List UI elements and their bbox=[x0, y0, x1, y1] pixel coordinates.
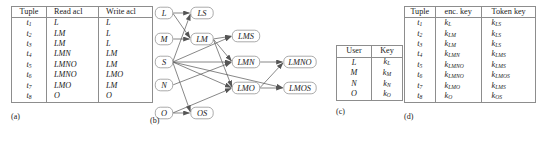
graph-node-os[interactable]: OS bbox=[191, 107, 213, 119]
table-row: t6 LMNO LMO bbox=[12, 70, 153, 80]
column-header-key: Key bbox=[372, 46, 403, 58]
table-header-row: Tuple Read acl Write acl bbox=[12, 7, 153, 18]
table-row: t8 kO kOS bbox=[405, 91, 536, 102]
cell-token-key: kLS bbox=[482, 29, 536, 39]
cell-enc-key: kO bbox=[435, 91, 482, 102]
column-header-user: User bbox=[337, 46, 372, 58]
panel-d-enc-token-key-table: Tuple enc. key Token key t1 kL kLS t2 kL… bbox=[404, 6, 536, 103]
graph-node-label: LM bbox=[195, 35, 209, 44]
table-header-row: Tuple enc. key Token key bbox=[405, 7, 536, 18]
cell-write-acl: LM bbox=[99, 50, 153, 60]
cell-token-key: kLMOS bbox=[482, 70, 536, 80]
cell-write-acl: L bbox=[99, 18, 153, 29]
cell-enc-key: kL bbox=[435, 18, 482, 29]
cell-write-acl: LMO bbox=[99, 70, 153, 80]
cell-key: kL bbox=[372, 57, 403, 68]
cell-tuple: t4 bbox=[12, 50, 47, 60]
cell-write-acl: L bbox=[99, 29, 153, 39]
table-row: t2 kLM kLS bbox=[405, 29, 536, 39]
cell-read-acl: LMNO bbox=[47, 60, 99, 70]
cell-user: L bbox=[337, 57, 372, 68]
cell-tuple: t7 bbox=[12, 81, 47, 91]
panel-a-read-write-acl: Tuple Read acl Write acl t1 L L t2 LM L … bbox=[11, 6, 153, 103]
table-row: L kL bbox=[337, 57, 403, 68]
table-row: t6 kLMNO kLMOS bbox=[405, 70, 536, 80]
graph-node-label: OS bbox=[197, 109, 208, 118]
cell-tuple: t8 bbox=[12, 91, 47, 102]
column-header-enc-key: enc. key bbox=[435, 7, 482, 18]
cell-read-acl: LM bbox=[47, 39, 99, 49]
cell-tuple: t6 bbox=[405, 70, 436, 80]
graph-node-label: O bbox=[161, 109, 167, 118]
panel-caption-d: (d) bbox=[404, 112, 413, 121]
table-row: t3 kLM kLS bbox=[405, 39, 536, 49]
graph-svg: LLSMLMLMSSLMNLMNONLMOLMOSOOS bbox=[150, 0, 330, 128]
cell-enc-key: kLM bbox=[435, 39, 482, 49]
table-row: t7 kLMO kLMS bbox=[405, 81, 536, 91]
column-header-token-key: Token key bbox=[482, 7, 536, 18]
enc-token-key-table: Tuple enc. key Token key t1 kL kLS t2 kL… bbox=[404, 6, 536, 103]
graph-node-s[interactable]: S bbox=[155, 56, 172, 68]
figure-root: Tuple Read acl Write acl t1 L L t2 LM L … bbox=[0, 0, 536, 142]
graph-node-lms[interactable]: LMS bbox=[232, 30, 259, 42]
graph-node-l[interactable]: L bbox=[155, 7, 172, 19]
cell-read-acl: O bbox=[47, 91, 99, 102]
cell-tuple: t5 bbox=[12, 60, 47, 70]
panel-caption-c: (c) bbox=[336, 107, 345, 116]
cell-token-key: kLMS bbox=[482, 60, 536, 70]
cell-tuple: t2 bbox=[12, 29, 47, 39]
cell-tuple: t3 bbox=[12, 39, 47, 49]
cell-token-key: kLMS bbox=[482, 50, 536, 60]
cell-read-acl: LM bbox=[47, 29, 99, 39]
graph-node-label: LMOS bbox=[288, 84, 312, 93]
cell-user: M bbox=[337, 68, 372, 79]
graph-node-layer: LLSMLMLMSSLMNLMNONLMOLMOSOOS bbox=[155, 7, 316, 119]
cell-key: kO bbox=[372, 89, 403, 100]
graph-node-m[interactable]: M bbox=[155, 33, 172, 45]
cell-tuple: t1 bbox=[12, 18, 47, 29]
graph-node-label: LMN bbox=[236, 58, 255, 67]
cell-enc-key: kLM bbox=[435, 29, 482, 39]
cell-user: O bbox=[337, 89, 372, 100]
cell-write-acl: LM bbox=[99, 81, 153, 91]
table-row: t1 kL kLS bbox=[405, 18, 536, 29]
graph-node-n[interactable]: N bbox=[155, 79, 172, 91]
graph-edge bbox=[173, 62, 191, 111]
table-row: t8 O O bbox=[12, 91, 153, 102]
graph-node-lm[interactable]: LM bbox=[191, 33, 213, 45]
cell-tuple: t6 bbox=[12, 70, 47, 80]
graph-edge bbox=[173, 13, 190, 38]
cell-write-acl: LM bbox=[99, 60, 153, 70]
panel-b-key-derivation-graph: LLSMLMLMSSLMNLMNONLMOLMOSOOS (b) bbox=[150, 0, 330, 132]
graph-node-label: L bbox=[161, 9, 167, 18]
acl-table: Tuple Read acl Write acl t1 L L t2 LM L … bbox=[11, 6, 153, 103]
table-row: t5 LMNO LM bbox=[12, 60, 153, 70]
graph-node-lmos[interactable]: LMOS bbox=[284, 82, 316, 94]
table-row: t5 kLMNO kLMS bbox=[405, 60, 536, 70]
table-row: O kO bbox=[337, 89, 403, 100]
graph-edge bbox=[173, 62, 282, 88]
cell-read-acl: L bbox=[47, 18, 99, 29]
cell-enc-key: kLMN bbox=[435, 50, 482, 60]
cell-tuple: t2 bbox=[405, 29, 436, 39]
cell-tuple: t4 bbox=[405, 50, 436, 60]
cell-read-acl: LMO bbox=[47, 81, 99, 91]
graph-node-label: N bbox=[160, 81, 167, 90]
column-header-tuple: Tuple bbox=[405, 7, 436, 18]
cell-key: kN bbox=[372, 79, 403, 90]
cell-key: kM bbox=[372, 68, 403, 79]
table-row: t7 LMO LM bbox=[12, 81, 153, 91]
graph-node-ls[interactable]: LS bbox=[191, 7, 213, 19]
column-header-read-acl: Read acl bbox=[47, 7, 99, 18]
graph-node-lmn[interactable]: LMN bbox=[232, 56, 259, 68]
cell-tuple: t5 bbox=[405, 60, 436, 70]
graph-node-lmo[interactable]: LMO bbox=[232, 82, 259, 94]
table-row: t4 LMN LM bbox=[12, 50, 153, 60]
table-row: t1 L L bbox=[12, 18, 153, 29]
cell-token-key: kLS bbox=[482, 39, 536, 49]
table-row: t3 LM L bbox=[12, 39, 153, 49]
table-header-row: User Key bbox=[337, 46, 403, 58]
cell-token-key: kLMS bbox=[482, 81, 536, 91]
column-header-write-acl: Write acl bbox=[99, 7, 153, 18]
graph-node-lmno[interactable]: LMNO bbox=[284, 56, 316, 68]
